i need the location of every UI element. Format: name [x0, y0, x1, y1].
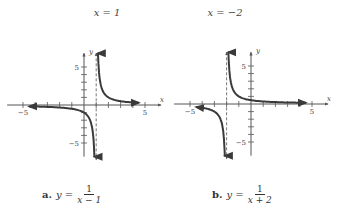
caption-b-denominator: x + 2 [248, 195, 272, 205]
caption-a-numerator: 1 [84, 184, 94, 195]
x-tick-label-min: −5 [185, 108, 195, 116]
y-tick-label-max: 5 [75, 64, 79, 72]
curve-branch [196, 107, 225, 156]
x-tick-label-max: 5 [143, 109, 147, 117]
curve-branch [98, 53, 139, 103]
y-tick-label-max: 5 [242, 63, 246, 71]
chart-b: −555−5xyx = −2 [174, 7, 331, 159]
caption-a-letter: a. [42, 189, 52, 200]
caption-b-lhs: y = [226, 189, 243, 200]
x-axis-label: x [160, 96, 164, 104]
caption-b: b. y = 1 x + 2 [212, 184, 272, 205]
caption-b-numerator: 1 [255, 184, 265, 195]
asymptote-label: x = −2 [207, 7, 242, 18]
asymptote-label: x = 1 [94, 7, 121, 18]
caption-b-letter: b. [212, 189, 222, 200]
y-axis-label: y [255, 47, 261, 55]
y-tick-label-min: −5 [236, 139, 246, 147]
x-axis-label: x [327, 95, 331, 103]
caption-a-denominator: x − 1 [77, 195, 101, 205]
x-tick-label-min: −5 [18, 109, 28, 117]
chart-a: −555−5xyx = 1 [7, 7, 164, 160]
caption-a-lhs: y = [56, 189, 73, 200]
y-tick-label-min: −5 [69, 140, 79, 148]
y-axis-label: y [88, 48, 94, 56]
caption-a: a. y = 1 x − 1 [42, 184, 101, 205]
caption-b-fraction: 1 x + 2 [248, 184, 272, 205]
x-tick-label-max: 5 [310, 108, 314, 116]
caption-a-fraction: 1 x − 1 [77, 184, 101, 205]
curve-branch [29, 106, 94, 156]
curve-branch [228, 52, 306, 103]
